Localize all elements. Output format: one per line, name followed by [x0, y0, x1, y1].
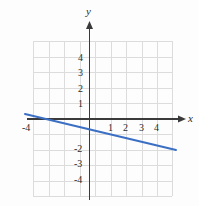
y-tick-label-3: 3	[78, 68, 83, 78]
y-axis	[86, 21, 93, 200]
coordinate-plane-svg	[0, 0, 199, 206]
x-tick-label-2: 2	[123, 123, 128, 133]
y-axis-arrow-icon	[86, 21, 93, 29]
y-tick-label-neg2: -2	[74, 144, 82, 154]
x-tick-label-neg4: -4	[22, 123, 30, 133]
x-axis	[27, 115, 186, 122]
x-tick-label-3: 3	[139, 123, 144, 133]
y-tick-label-neg3: -3	[74, 159, 82, 169]
graph-figure: 4 3 2 1 -2 -3 -4 -4 1 2 3 4 x y	[0, 0, 199, 206]
y-tick-label-2: 2	[78, 84, 83, 94]
x-axis-arrow-icon	[178, 115, 186, 122]
y-tick-label-neg4: -4	[74, 175, 82, 185]
y-axis-name: y	[86, 6, 91, 17]
x-tick-label-4: 4	[154, 123, 159, 133]
x-axis-name: x	[188, 113, 193, 124]
x-tick-label-1: 1	[108, 123, 113, 133]
y-tick-label-1: 1	[78, 99, 83, 109]
y-tick-label-4: 4	[78, 53, 83, 63]
